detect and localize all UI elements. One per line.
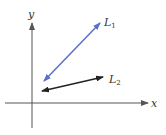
line-L2	[42, 77, 103, 91]
x-axis-label: x	[151, 97, 158, 110]
line-L1	[44, 23, 100, 81]
line-L1-label: L1	[103, 16, 116, 30]
diagram-canvas: y x L1 L2	[0, 0, 166, 135]
line-L2-label: L2	[108, 73, 121, 87]
y-axis-label: y	[27, 8, 35, 21]
